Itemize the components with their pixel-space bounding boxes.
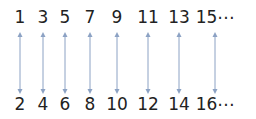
even-number-2: 2 — [15, 96, 26, 113]
double-arrow-icon — [17, 32, 24, 94]
odd-number-1: 1 — [15, 9, 26, 26]
even-number-6: 6 — [60, 96, 71, 113]
odd-number-11: 11 — [137, 9, 159, 26]
double-arrow-icon — [176, 32, 183, 94]
double-arrow-icon — [40, 32, 47, 94]
even-number-16: 16⋯ — [196, 96, 235, 113]
double-arrow-icon — [87, 32, 94, 94]
even-number-10: 10 — [106, 96, 128, 113]
even-number-4: 4 — [38, 96, 49, 113]
double-arrow-icon — [145, 32, 152, 94]
even-number-14: 14 — [168, 96, 190, 113]
odd-number-13: 13 — [168, 9, 190, 26]
odd-number-7: 7 — [85, 9, 96, 26]
double-arrow-icon — [212, 32, 219, 94]
odd-number-15: 15⋯ — [196, 9, 235, 26]
double-arrow-icon — [62, 32, 69, 94]
even-number-8: 8 — [85, 96, 96, 113]
odd-number-9: 9 — [112, 9, 123, 26]
double-arrow-icon — [114, 32, 121, 94]
odd-number-5: 5 — [60, 9, 71, 26]
even-number-12: 12 — [137, 96, 159, 113]
odd-number-3: 3 — [38, 9, 49, 26]
